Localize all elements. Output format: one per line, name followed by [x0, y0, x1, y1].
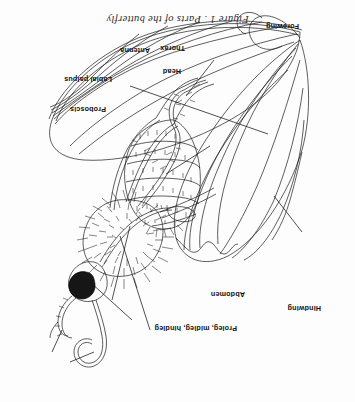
butterfly-illustration: [0, 0, 355, 402]
label-hindwing: Hindwing: [287, 305, 321, 312]
label-abdomen: Abdomen: [211, 291, 245, 298]
hindwing-shape: [174, 12, 308, 261]
figure-caption: Figure 1 . Parts of the butterfly: [0, 14, 355, 25]
label-labial-palpus: Labial palpus: [64, 76, 112, 83]
label-thorax: Thorax: [160, 45, 185, 52]
label-antenna: Antenna: [120, 47, 150, 54]
head-shape: [50, 205, 195, 367]
figure-root: Proleg, midleg, hindleg Hindwing Abdomen…: [0, 0, 355, 402]
label-proboscis: Proboscis: [70, 106, 106, 113]
label-head: Head: [163, 68, 181, 75]
label-proleg-midleg-hindleg: Proleg, midleg, hindleg: [154, 325, 237, 332]
